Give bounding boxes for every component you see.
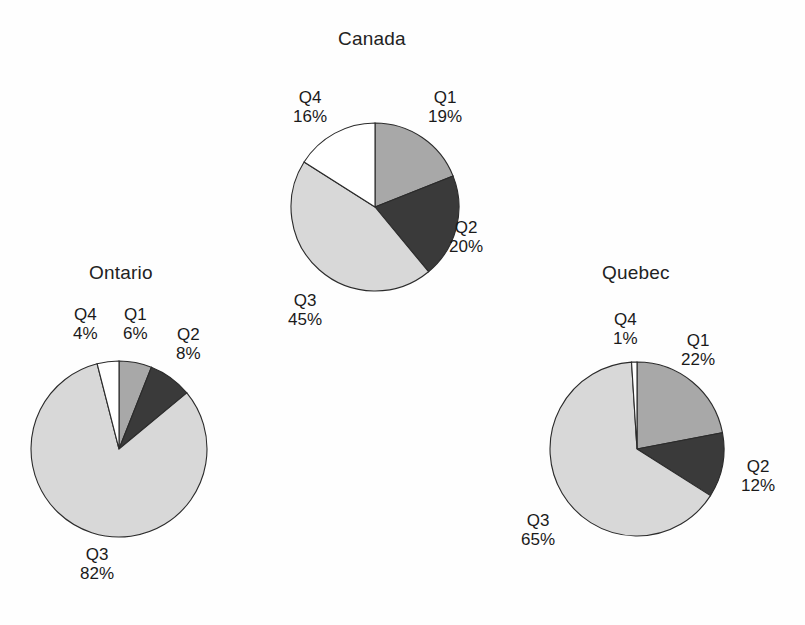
slice-label-value: 82% [80,564,114,583]
slice-label-name: Q3 [288,291,322,310]
slice-label-value: 65% [521,530,555,549]
pie-graphic-ontario [28,358,210,540]
slice-label-ontario-q2: Q28% [176,325,201,363]
slice-label-value: 22% [681,350,715,369]
slice-label-name: Q1 [123,305,148,324]
slice-label-ontario-q1: Q16% [123,305,148,343]
slice-label-name: Q3 [521,511,555,530]
slice-label-canada-q2: Q220% [449,218,483,256]
slice-label-ontario-q4: Q44% [73,305,98,343]
chart-title-quebec: Quebec [602,262,670,284]
slice-label-name: Q4 [293,88,327,107]
slice-label-quebec-q3: Q365% [521,511,555,549]
pie-graphic-quebec [547,359,727,539]
slice-label-value: 45% [288,310,322,329]
slice-label-quebec-q2: Q212% [741,457,775,495]
pie-chart-figure: CanadaQ119%Q220%Q345%Q416%OntarioQ16%Q28… [0,0,805,625]
slice-label-value: 1% [613,329,638,348]
slice-label-canada-q4: Q416% [293,88,327,126]
slice-label-name: Q4 [613,310,638,329]
slice-label-name: Q1 [428,88,462,107]
slice-label-name: Q2 [741,457,775,476]
slice-label-value: 8% [176,344,201,363]
slice-label-quebec-q4: Q41% [613,310,638,348]
slice-label-value: 6% [123,324,148,343]
chart-title-ontario: Ontario [89,262,153,284]
slice-label-canada-q3: Q345% [288,291,322,329]
slice-label-value: 16% [293,107,327,126]
slice-label-value: 12% [741,476,775,495]
slice-label-quebec-q1: Q122% [681,331,715,369]
slice-label-name: Q3 [80,545,114,564]
slice-label-canada-q1: Q119% [428,88,462,126]
chart-title-canada: Canada [338,28,406,50]
slice-label-value: 4% [73,324,98,343]
pie-graphic-canada [288,120,462,294]
slice-label-ontario-q3: Q382% [80,545,114,583]
slice-label-value: 19% [428,107,462,126]
slice-label-name: Q4 [73,305,98,324]
slice-label-name: Q2 [176,325,201,344]
slice-label-value: 20% [449,237,483,256]
slice-label-name: Q1 [681,331,715,350]
slice-label-name: Q2 [449,218,483,237]
